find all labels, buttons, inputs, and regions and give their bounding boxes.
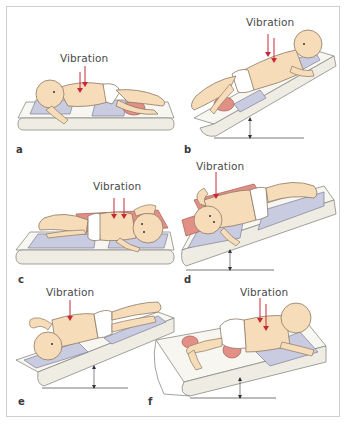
- panel-a: Vibration a: [8, 10, 178, 145]
- panel-f: Vibration f: [150, 286, 320, 421]
- panel-letter-e: e: [18, 396, 25, 407]
- panel-letter-d: d: [184, 274, 191, 285]
- panel-c: Vibration c: [8, 150, 178, 285]
- vibration-arrow-icon: [265, 52, 271, 57]
- panel-d: Vibration d: [174, 150, 344, 285]
- vibration-label: Vibration: [240, 286, 288, 298]
- panel-letter-c: c: [18, 274, 24, 285]
- panel-b: Vibration b: [174, 10, 344, 145]
- vibration-label: Vibration: [93, 180, 141, 192]
- vibration-label: Vibration: [196, 160, 244, 172]
- panel-a-illustration: [8, 10, 178, 145]
- vibration-label: Vibration: [246, 16, 294, 28]
- vibration-label: Vibration: [46, 286, 94, 298]
- vibration-label: Vibration: [60, 52, 108, 64]
- panel-b-illustration: [174, 10, 344, 145]
- panel-c-illustration: [8, 150, 178, 285]
- panel-letter-f: f: [148, 396, 152, 407]
- panel-f-illustration: [150, 286, 340, 421]
